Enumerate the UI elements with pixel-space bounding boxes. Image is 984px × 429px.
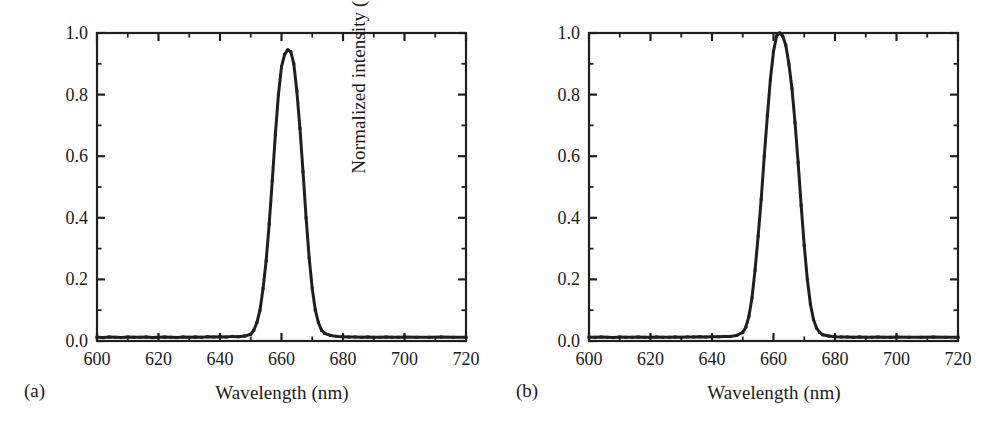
b-data-marker [803,244,806,247]
a-data-marker [335,335,338,338]
a-data-marker [151,336,154,339]
a-data-marker [452,336,455,339]
b-data-marker [717,335,720,338]
b-data-marker [797,161,800,164]
b-data-marker [735,334,738,337]
b-data-marker [692,336,695,339]
a-xtick-label: 660 [268,349,295,370]
b-data-marker [763,155,766,158]
b-data-marker [815,327,818,330]
a-data-marker [317,321,320,324]
a-data-marker [175,336,178,339]
b-data-marker [760,198,763,201]
b-data-marker [772,50,775,53]
a-data-marker [258,309,261,312]
a-data-marker [219,335,222,338]
panel-a-spectrum-curve [96,48,468,339]
b-data-marker [944,336,947,339]
b-data-marker [766,115,769,118]
a-data-marker [320,329,323,332]
a-data-marker [225,336,228,339]
b-data-marker [618,336,621,339]
a-data-marker [440,336,443,339]
b-data-marker [864,336,867,339]
b-data-marker [655,336,658,339]
b-data-marker [907,336,910,339]
a-data-marker [378,336,381,339]
b-data-marker [806,278,809,281]
a-data-marker [372,336,375,339]
b-data-marker [781,35,784,38]
b-data-marker [827,335,830,338]
b-data-marker [858,336,861,339]
b-data-marker [723,335,726,338]
panel-a: Normalized intensity (a.u.) Wavelength (… [0,0,492,429]
b-data-marker [957,336,960,339]
b-data-marker [840,336,843,339]
b-data-marker [649,336,652,339]
a-data-marker [255,321,258,324]
a-ytick-label: 0.2 [42,269,88,290]
a-data-marker [465,336,468,339]
a-data-marker [200,336,203,339]
a-data-marker [249,333,252,336]
panel-a-tag: (a) [24,380,45,402]
panel-b-y-axis-label: Normalized intensity (a.u.) [348,0,388,220]
b-data-marker [588,336,591,339]
b-data-marker [741,331,744,334]
a-data-marker [212,336,215,339]
b-ytick-label: 0.8 [534,84,580,105]
a-data-marker [132,336,135,339]
a-data-marker [360,336,363,339]
a-xtick-label: 640 [207,349,234,370]
a-xtick-label: 600 [84,349,111,370]
a-xtick-label: 720 [453,349,480,370]
b-data-marker [920,336,923,339]
a-data-marker [342,335,345,338]
b-data-marker [846,336,849,339]
a-ytick-label: 0.4 [42,207,88,228]
b-data-marker [778,32,781,35]
b-ytick-label: 0.0 [534,331,580,352]
b-ytick-label: 0.6 [534,146,580,167]
a-data-marker [268,222,271,225]
panel-b-tag: (b) [516,380,538,402]
b-data-marker [834,335,837,338]
a-ytick-label: 1.0 [42,23,88,44]
a-data-marker [305,216,308,219]
a-data-marker [163,336,166,339]
a-data-marker [415,336,418,339]
a-data-marker [277,93,280,96]
figure-container: Normalized intensity (a.u.) Wavelength (… [0,0,984,429]
a-data-marker [286,48,289,51]
b-data-marker [680,336,683,339]
a-data-marker [348,336,351,339]
b-data-marker [606,336,609,339]
b-data-marker [594,336,597,339]
a-data-marker [145,336,148,339]
panel-b-axes-frame [589,33,958,341]
a-data-marker [298,127,301,130]
a-data-marker [403,336,406,339]
a-data-marker [391,336,394,339]
b-data-marker [809,303,812,306]
panel-b-spectrum-curve [588,32,960,340]
b-data-marker [729,335,732,338]
b-ytick-label: 0.4 [534,207,580,228]
b-data-marker [852,336,855,339]
b-data-marker [661,336,664,339]
a-data-marker [295,90,298,93]
b-data-marker [889,336,892,339]
b-curve-path [589,33,958,338]
a-data-marker [314,309,317,312]
b-data-marker [769,78,772,81]
a-data-marker [283,53,286,56]
a-data-marker [114,336,117,339]
a-data-marker [302,170,305,173]
a-data-marker [237,335,240,338]
b-data-marker [784,44,787,47]
a-data-marker [397,336,400,339]
a-data-marker [188,336,191,339]
b-data-marker [932,336,935,339]
panel-a-x-axis-label: Wavelength (nm) [97,382,467,404]
